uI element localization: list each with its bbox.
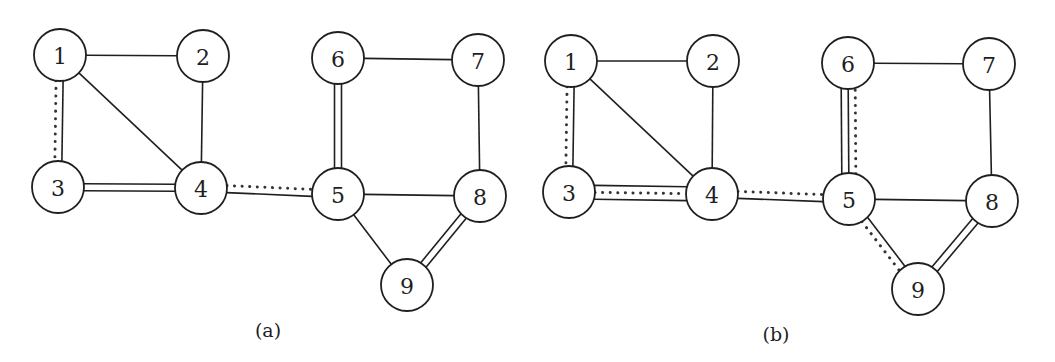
node-label: 8 bbox=[985, 190, 999, 215]
node-label: 5 bbox=[842, 188, 856, 213]
node-7: 7 bbox=[452, 34, 504, 86]
edge-solid-strand bbox=[79, 73, 182, 170]
node-1: 1 bbox=[34, 29, 86, 81]
edge-6-7 bbox=[874, 63, 963, 64]
node-label: 1 bbox=[53, 44, 67, 69]
node-9: 9 bbox=[381, 259, 433, 311]
edge-solid-strand bbox=[594, 199, 687, 200]
node-2: 2 bbox=[177, 30, 229, 82]
edge-7-8 bbox=[478, 86, 479, 170]
edge-6-7 bbox=[364, 58, 452, 59]
edge-solid-strand bbox=[478, 86, 479, 170]
edge-1-3 bbox=[566, 87, 574, 167]
edge-solid-strand bbox=[84, 184, 176, 185]
node-label: 2 bbox=[196, 45, 210, 70]
node-label: 4 bbox=[705, 183, 719, 208]
node-9: 9 bbox=[892, 263, 944, 315]
edge-solid-strand bbox=[421, 214, 461, 263]
edge-1-4 bbox=[590, 79, 693, 176]
edge-solid-strand bbox=[364, 194, 454, 195]
node-label: 7 bbox=[982, 53, 996, 78]
node-label: 6 bbox=[331, 47, 345, 72]
edge-8-9 bbox=[421, 214, 467, 268]
node-label: 4 bbox=[194, 177, 208, 202]
panel-b-caption: (b) bbox=[763, 323, 790, 345]
edge-1-4 bbox=[79, 73, 182, 170]
edge-1-3 bbox=[55, 81, 63, 162]
edge-dotted-strand bbox=[227, 186, 313, 190]
node-label: 8 bbox=[473, 185, 487, 210]
node-8: 8 bbox=[454, 170, 506, 222]
panel-a-edges bbox=[55, 55, 480, 267]
edge-3-4 bbox=[594, 185, 687, 200]
edge-dotted-strand bbox=[738, 191, 824, 194]
edge-5-6 bbox=[335, 84, 342, 168]
edge-dotted-strand bbox=[855, 88, 856, 174]
node-8: 8 bbox=[966, 175, 1018, 227]
panel-b-nodes: 123456789 bbox=[543, 35, 1018, 315]
edge-2-4 bbox=[201, 82, 202, 162]
edge-dotted-strand bbox=[862, 222, 900, 271]
edge-solid-strand bbox=[932, 219, 973, 268]
panel-b-edges bbox=[566, 61, 992, 272]
edge-solid-strand bbox=[590, 79, 693, 176]
node-label: 2 bbox=[706, 50, 720, 75]
node-3: 3 bbox=[32, 161, 84, 213]
node-label: 5 bbox=[331, 183, 345, 208]
edge-solid-strand bbox=[874, 63, 963, 64]
node-label: 6 bbox=[841, 52, 855, 77]
edge-solid-strand bbox=[875, 199, 966, 200]
edge-solid-strand bbox=[86, 55, 177, 56]
edge-solid-strand bbox=[354, 215, 392, 265]
edge-3-4 bbox=[84, 184, 176, 192]
node-6: 6 bbox=[822, 37, 874, 89]
node-4: 4 bbox=[175, 162, 227, 214]
panel-b: 123456789 (b) bbox=[543, 35, 1018, 345]
panel-a-caption: (a) bbox=[255, 319, 281, 341]
panel-a: 123456789 (a) bbox=[32, 29, 506, 341]
edge-4-5 bbox=[227, 186, 313, 197]
node-label: 7 bbox=[471, 49, 485, 74]
node-2: 2 bbox=[687, 35, 739, 87]
graph-diagram-figure: 123456789 (a) 123456789 (b) bbox=[0, 0, 1055, 362]
edge-5-8 bbox=[364, 194, 454, 195]
edge-5-9 bbox=[862, 217, 905, 270]
edge-5-9 bbox=[354, 215, 392, 265]
edge-dotted-strand bbox=[595, 192, 686, 193]
edge-4-5 bbox=[738, 191, 824, 201]
edge-solid-strand bbox=[841, 88, 842, 174]
node-5: 5 bbox=[312, 168, 364, 220]
edge-7-8 bbox=[990, 90, 992, 175]
edge-solid-strand bbox=[868, 217, 906, 266]
edge-solid-strand bbox=[573, 87, 574, 167]
edge-solid-strand bbox=[738, 198, 824, 201]
edge-solid-strand bbox=[594, 185, 687, 186]
edge-solid-strand bbox=[201, 82, 202, 162]
edge-2-4 bbox=[712, 87, 713, 168]
node-6: 6 bbox=[312, 32, 364, 84]
edge-solid-strand bbox=[227, 193, 313, 197]
panel-a-nodes: 123456789 bbox=[32, 29, 506, 311]
edge-dotted-strand bbox=[55, 81, 56, 162]
edge-5-8 bbox=[875, 199, 966, 200]
node-3: 3 bbox=[543, 166, 595, 218]
node-5: 5 bbox=[823, 173, 875, 225]
edge-solid-strand bbox=[364, 58, 452, 59]
edge-solid-strand bbox=[712, 87, 713, 168]
edge-1-2 bbox=[86, 55, 177, 56]
diagram-canvas: 123456789 (a) 123456789 (b) bbox=[0, 0, 1055, 362]
edge-solid-strand bbox=[848, 89, 849, 173]
node-4: 4 bbox=[686, 168, 738, 220]
edge-solid-strand bbox=[426, 218, 466, 267]
node-1: 1 bbox=[545, 35, 597, 87]
edge-5-6 bbox=[841, 88, 856, 174]
edge-solid-strand bbox=[84, 191, 176, 192]
node-label: 9 bbox=[911, 278, 925, 303]
node-label: 3 bbox=[562, 181, 576, 206]
node-label: 1 bbox=[564, 50, 578, 75]
edge-solid-strand bbox=[990, 90, 992, 175]
edge-solid-strand bbox=[937, 223, 978, 272]
edge-dotted-strand bbox=[566, 87, 567, 167]
node-7: 7 bbox=[963, 38, 1015, 90]
node-label: 9 bbox=[400, 274, 414, 299]
